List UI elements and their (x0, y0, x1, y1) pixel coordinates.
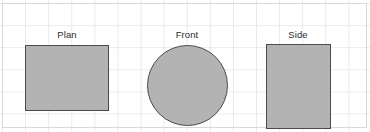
plan-rectangle-shape[interactable] (25, 45, 109, 111)
view-front-label: Front (143, 29, 231, 40)
view-side[interactable]: Side (258, 29, 338, 129)
drawing-canvas: Plan Front Side (0, 0, 370, 132)
view-plan[interactable]: Plan (18, 29, 116, 124)
side-rectangle-shape[interactable] (266, 44, 331, 129)
view-front[interactable]: Front (143, 29, 231, 129)
view-side-label: Side (258, 29, 338, 40)
front-circle-shape[interactable] (147, 45, 228, 126)
view-plan-label: Plan (18, 29, 116, 40)
